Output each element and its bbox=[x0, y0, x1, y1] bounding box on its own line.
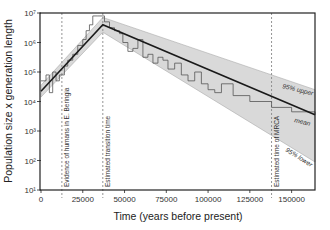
x-tick-label: 150000 bbox=[278, 195, 305, 204]
annotation-label: Evidence of humans in E. Beringia bbox=[63, 87, 71, 187]
y-tick-label: 10⁴ bbox=[24, 98, 37, 107]
x-tick-label: 25000 bbox=[72, 195, 95, 204]
y-tick-label: 10² bbox=[24, 157, 36, 166]
y-tick-label: 10³ bbox=[24, 127, 36, 136]
x-tick-label: 75000 bbox=[155, 195, 178, 204]
y-tick-label: 10⁷ bbox=[24, 9, 36, 18]
x-tick-label: 50000 bbox=[113, 195, 136, 204]
y-tick-label: 10¹ bbox=[24, 186, 36, 195]
annotation-label: Estimated transition time bbox=[104, 115, 111, 187]
x-tick-label: 0 bbox=[39, 195, 44, 204]
y-tick-label: 10⁶ bbox=[24, 39, 36, 48]
y-axis-label: Population size x generation length bbox=[2, 19, 14, 183]
x-tick-label: 100000 bbox=[195, 195, 222, 204]
population-chart: Evidence of humans in E. BeringiaEstimat… bbox=[0, 0, 330, 230]
annotation-label: Estimated time of MRCA bbox=[273, 115, 280, 187]
x-axis-label: Time (years before present) bbox=[113, 210, 242, 222]
y-tick-label: 10⁵ bbox=[24, 68, 36, 77]
x-tick-label: 125000 bbox=[236, 195, 263, 204]
